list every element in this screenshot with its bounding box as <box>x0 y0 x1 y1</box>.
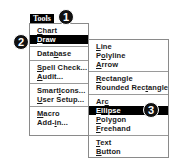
tools-menu-item-database[interactable]: Database <box>30 49 88 58</box>
draw-submenu-item-rounded-rectangle[interactable]: Rounded Rectangle <box>89 83 168 92</box>
tools-menu-item-add-in[interactable]: Add-in... <box>30 118 88 127</box>
callout-badge-2: 2 <box>13 34 29 50</box>
menu-separator <box>30 60 88 61</box>
tools-menu-item-macro[interactable]: Macro <box>30 109 88 118</box>
draw-submenu-item-freehand[interactable]: Freehand <box>89 124 168 133</box>
callout-badge-3: 3 <box>143 102 159 118</box>
menu-separator <box>30 83 88 84</box>
draw-submenu-item-button[interactable]: Button <box>89 147 168 156</box>
draw-submenu-item-polyline[interactable]: Polyline <box>89 51 168 60</box>
menu-separator <box>89 71 168 72</box>
tools-menu-item-audit[interactable]: Audit... <box>30 72 88 81</box>
tools-menu-item-draw[interactable]: Draw <box>30 35 88 44</box>
callout-badge-1: 1 <box>58 9 74 25</box>
tools-menu-item-chart[interactable]: Chart <box>30 26 88 35</box>
draw-submenu-item-rectangle[interactable]: Rectangle <box>89 74 168 83</box>
draw-submenu: LinePolylineArrowRectangleRounded Rectan… <box>88 39 169 158</box>
tools-menu-item-user-setup[interactable]: User Setup... <box>30 95 88 104</box>
draw-submenu-item-text[interactable]: Text <box>89 138 168 147</box>
menu-separator <box>30 46 88 47</box>
tools-menu-item-smarticons[interactable]: SmartIcons... <box>30 86 88 95</box>
menu-separator <box>30 106 88 107</box>
tools-menu: ChartDrawDatabaseSpell Check...Audit...S… <box>29 23 89 136</box>
menu-separator <box>89 135 168 136</box>
draw-submenu-item-polygon[interactable]: Polygon <box>89 115 168 124</box>
draw-submenu-item-line[interactable]: Line <box>89 42 168 51</box>
menu-separator <box>89 94 168 95</box>
tools-menu-item-spell-check[interactable]: Spell Check... <box>30 63 88 72</box>
draw-submenu-item-arrow[interactable]: Arrow <box>89 60 168 69</box>
menu-title-tools[interactable]: Tools <box>30 14 54 23</box>
